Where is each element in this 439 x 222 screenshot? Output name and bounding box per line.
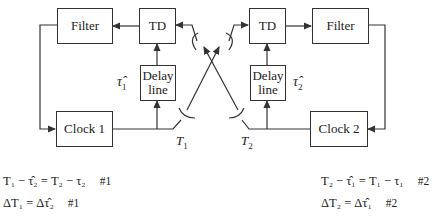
- filter-2-block: Filter: [312, 8, 369, 44]
- equation-right-2-text: ΔT₂ = Δτ̂₁: [321, 196, 372, 210]
- tau-hat-2-label: τ̂2: [293, 74, 303, 92]
- filter-2-label: Filter: [326, 19, 354, 33]
- equation-left-1-tag: #1: [100, 175, 112, 187]
- delay-line-1-block: Delay line: [140, 65, 176, 101]
- antenna-dish-upper-right: [226, 33, 232, 50]
- equation-left-2-text: ΔT₁ = Δτ̂₂: [3, 196, 54, 210]
- clock-2-label: Clock 2: [319, 122, 360, 136]
- signal-path-t1-to-right: [187, 47, 219, 110]
- filter-1-label: Filter: [71, 19, 99, 33]
- antenna-dish-upper-left: [192, 33, 198, 50]
- tau-hat-1-label: τ̂1: [117, 74, 127, 92]
- td-1-label: TD: [149, 19, 166, 33]
- equation-right-2: ΔT₂ = Δτ̂₁#2: [321, 196, 397, 211]
- td-1-block: TD: [139, 8, 176, 44]
- delay-line-1-label-bottom: line: [148, 83, 168, 97]
- clock-1-label: Clock 1: [64, 122, 105, 136]
- arrow-antenna-to-td1: [176, 25, 197, 41]
- antenna-t1-label: T1: [176, 133, 188, 151]
- equation-right-1-text: T₂ − τ̂₁ = T₁ − τ₁: [321, 174, 404, 188]
- signal-path-t2-to-left: [204, 47, 238, 110]
- equation-left-1: T₁ − τ̂₂ = T₂ − τ₂#1: [3, 174, 111, 189]
- equation-left-2: ΔT₁ = Δτ̂₂#1: [3, 196, 79, 211]
- clock2-to-antenna-line: [242, 120, 310, 129]
- antenna-dish-lower-right: [229, 108, 244, 118]
- arrow-filter2-to-clock2: [368, 25, 385, 129]
- delay-line-2-label-bottom: line: [258, 83, 278, 97]
- clock1-to-antenna-line: [112, 120, 181, 129]
- equation-right-1: T₂ − τ̂₁ = T₁ − τ₁#2: [321, 174, 429, 189]
- delay-line-2-label-top: Delay: [252, 69, 283, 83]
- equation-left-2-tag: #1: [68, 197, 80, 209]
- arrow-filter1-to-clock1: [40, 25, 57, 129]
- equation-right-1-tag: #2: [418, 175, 430, 187]
- delay-line-1-label-top: Delay: [142, 69, 173, 83]
- clock-1-block: Clock 1: [56, 111, 113, 147]
- filter-1-block: Filter: [57, 8, 113, 44]
- td-2-label: TD: [259, 19, 276, 33]
- equation-right-2-tag: #2: [386, 197, 398, 209]
- td-2-block: TD: [249, 8, 286, 44]
- antenna-t2-label: T2: [241, 133, 253, 151]
- clock-2-block: Clock 2: [310, 111, 368, 147]
- delay-line-2-block: Delay line: [250, 65, 286, 101]
- equation-left-1-text: T₁ − τ̂₂ = T₂ − τ₂: [3, 174, 86, 188]
